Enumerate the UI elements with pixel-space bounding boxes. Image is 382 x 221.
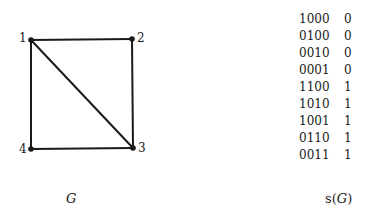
code-cell: 1000 <box>299 11 344 28</box>
edge-3-4 <box>31 148 133 149</box>
table-row: 00100 <box>299 45 364 62</box>
value-cell: 1 <box>344 79 364 96</box>
code-cell: 0011 <box>299 147 344 164</box>
table-row: 00111 <box>299 147 364 164</box>
table-row: 10011 <box>299 113 364 130</box>
value-cell: 1 <box>344 130 364 147</box>
vertex-3 <box>130 145 136 151</box>
vertex-2 <box>129 36 135 42</box>
caption-prefix: s( <box>325 191 337 206</box>
table-row: 00010 <box>299 62 364 79</box>
code-cell: 1001 <box>299 113 344 130</box>
table-row: 10000 <box>299 11 364 28</box>
s-table: 10000 01000 00100 00010 11001 10101 1001… <box>299 11 364 164</box>
table-row: 10101 <box>299 96 364 113</box>
vertex-1 <box>28 37 34 43</box>
code-cell: 0001 <box>299 62 344 79</box>
code-cell: 0110 <box>299 130 344 147</box>
graph-caption: G <box>66 191 76 206</box>
caption-suffix: ) <box>347 191 352 206</box>
value-cell: 0 <box>344 62 364 79</box>
edge-2-3 <box>132 39 133 148</box>
caption-var: G <box>337 191 347 206</box>
edge-1-3 <box>31 40 133 148</box>
value-cell: 0 <box>344 45 364 62</box>
value-cell: 0 <box>344 11 364 28</box>
edge-1-2 <box>31 39 132 40</box>
code-cell: 0100 <box>299 28 344 45</box>
value-cell: 1 <box>344 147 364 164</box>
table-row: 01101 <box>299 130 364 147</box>
code-cell: 1100 <box>299 79 344 96</box>
code-cell: 0010 <box>299 45 344 62</box>
value-cell: 0 <box>344 28 364 45</box>
vertex-label-4: 4 <box>19 142 27 156</box>
vertex-label-1: 1 <box>19 31 27 45</box>
vertex-4 <box>28 146 34 152</box>
table-row: 01000 <box>299 28 364 45</box>
table-row: 11001 <box>299 79 364 96</box>
table-caption: s(G) <box>325 191 352 206</box>
code-cell: 1010 <box>299 96 344 113</box>
vertex-label-3: 3 <box>138 141 146 155</box>
value-cell: 1 <box>344 96 364 113</box>
vertex-label-2: 2 <box>137 31 145 45</box>
value-cell: 1 <box>344 113 364 130</box>
